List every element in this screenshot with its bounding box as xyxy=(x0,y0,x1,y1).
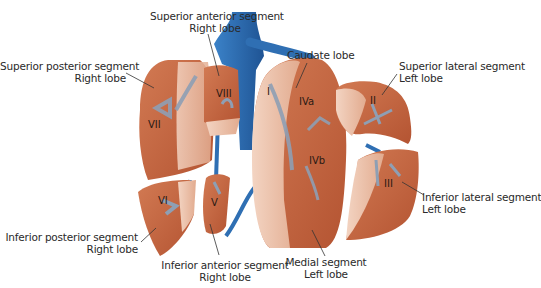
label-inferior-posterior: Inferior posterior segment Right lobe xyxy=(0,231,138,255)
segment-ii-label: II xyxy=(370,95,376,106)
label-inferior-lateral: Inferior lateral segment Left lobe xyxy=(422,191,541,215)
segment-iii-shape xyxy=(346,149,419,240)
segment-vi-label: VI xyxy=(158,195,168,206)
segment-viii-shape xyxy=(204,65,240,136)
label-medial-segment: Medial segment Left lobe xyxy=(276,256,376,280)
segment-iva-label: IVa xyxy=(299,96,314,107)
label-inferior-anterior: Inferior anterior segment Right lobe xyxy=(160,259,290,283)
label-superior-posterior: Superior posterior segment Right lobe xyxy=(0,60,126,84)
label-superior-anterior: Superior anterior segment Right lobe xyxy=(150,10,280,34)
label-caudate-lobe: Caudate lobe xyxy=(287,49,355,61)
label-superior-lateral: Superior lateral segment Left lobe xyxy=(399,60,525,84)
segment-vi-shape xyxy=(138,180,196,256)
segment-ivb-label: IVb xyxy=(309,155,325,166)
segment-vii-label: VII xyxy=(148,119,161,130)
segment-ii-shape xyxy=(336,81,411,144)
segment-i-label: I xyxy=(267,86,270,97)
segment-v-label: V xyxy=(211,197,218,208)
segment-iii-label: III xyxy=(384,178,393,189)
segment-viii-label: VIII xyxy=(216,88,232,99)
